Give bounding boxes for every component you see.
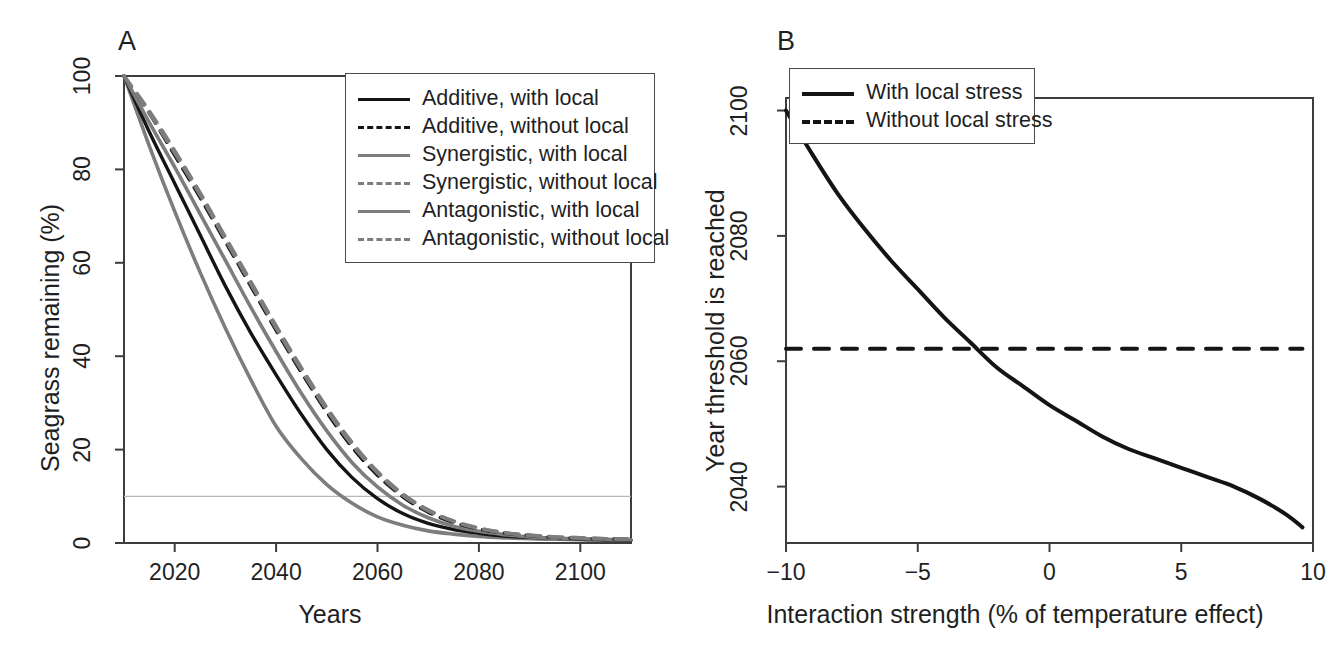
dashed-line-icon bbox=[358, 228, 410, 248]
solid-line-icon bbox=[802, 82, 854, 102]
legend-item-label: Antagonistic, with local bbox=[422, 196, 640, 224]
legend-item: Additive, with local bbox=[358, 84, 644, 112]
panel-b-x-tick-0: 0 bbox=[1043, 559, 1056, 586]
panel-b-y-tick-2080: 2080 bbox=[726, 210, 753, 261]
legend-item: Synergistic, with local bbox=[358, 140, 644, 168]
legend-item: With local stress bbox=[802, 78, 1024, 106]
legend-item-label: Synergistic, with local bbox=[422, 140, 628, 168]
legend-item: Without local stress bbox=[802, 106, 1024, 134]
dashed-line-icon bbox=[358, 116, 410, 136]
legend-item-label: With local stress bbox=[866, 78, 1023, 106]
panel-b-x-tick--10: −10 bbox=[766, 559, 805, 586]
legend-item-label: Antagonistic, without local bbox=[422, 224, 669, 252]
panel-b-legend: With local stressWithout local stress bbox=[789, 68, 1035, 144]
solid-line-icon bbox=[358, 88, 410, 108]
legend-item: Additive, without local bbox=[358, 112, 644, 140]
panel-b-x-tick-5: 5 bbox=[1175, 559, 1188, 586]
legend-item-label: Synergistic, without local bbox=[422, 168, 657, 196]
dashed-line-icon bbox=[358, 172, 410, 192]
legend-item: Synergistic, without local bbox=[358, 168, 644, 196]
legend-item-label: Additive, without local bbox=[422, 112, 629, 140]
panel-a-x-tick-2080: 2080 bbox=[453, 559, 504, 586]
panel-b: B Year threshold is reached Interaction … bbox=[667, 0, 1334, 670]
series-line bbox=[786, 111, 1302, 528]
panel-a-x-tick-2040: 2040 bbox=[251, 559, 302, 586]
panel-a-y-tick-0: 0 bbox=[69, 537, 96, 550]
panel-a-legend: Additive, with localAdditive, without lo… bbox=[345, 73, 655, 263]
panel-a-y-tick-40: 40 bbox=[69, 343, 96, 369]
legend-item: Antagonistic, with local bbox=[358, 196, 644, 224]
legend-item: Antagonistic, without local bbox=[358, 224, 644, 252]
legend-item-label: Additive, with local bbox=[422, 84, 599, 112]
panel-a: A Seagrass remaining (%) Years Additive,… bbox=[0, 0, 667, 670]
panel-a-x-tick-2060: 2060 bbox=[352, 559, 403, 586]
panel-b-x-tick--5: −5 bbox=[905, 559, 931, 586]
figure-canvas: A Seagrass remaining (%) Years Additive,… bbox=[0, 0, 1334, 670]
panel-a-y-tick-80: 80 bbox=[69, 157, 96, 183]
panel-b-y-tick-2040: 2040 bbox=[726, 461, 753, 512]
panel-a-y-tick-100: 100 bbox=[69, 57, 96, 95]
solid-line-icon bbox=[358, 144, 410, 164]
panel-a-y-tick-20: 20 bbox=[69, 437, 96, 463]
panel-a-x-tick-2020: 2020 bbox=[149, 559, 200, 586]
panel-a-x-tick-2100: 2100 bbox=[555, 559, 606, 586]
legend-item-label: Without local stress bbox=[866, 106, 1052, 134]
panel-b-y-tick-2100: 2100 bbox=[726, 85, 753, 136]
solid-line-icon bbox=[358, 200, 410, 220]
panel-b-x-tick-10: 10 bbox=[1300, 559, 1326, 586]
panel-a-y-tick-60: 60 bbox=[69, 250, 96, 276]
panel-b-y-tick-2060: 2060 bbox=[726, 336, 753, 387]
dashed-line-icon bbox=[802, 110, 854, 130]
